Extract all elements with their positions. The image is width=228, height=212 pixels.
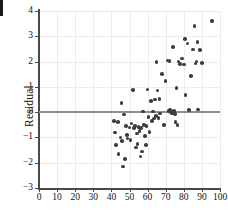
data-point — [145, 124, 149, 128]
data-point — [191, 48, 195, 52]
x-axis-tick-label: 90 — [197, 193, 207, 203]
y-axis-tick-label: 1 — [28, 82, 33, 92]
data-point — [198, 48, 202, 52]
data-point — [116, 120, 120, 124]
x-axis-tick-label: 50 — [125, 193, 135, 203]
y-axis-tick-label: 2 — [28, 57, 33, 67]
data-point — [117, 152, 121, 156]
data-point — [146, 88, 150, 92]
data-point — [196, 108, 200, 112]
data-point — [200, 61, 204, 65]
data-point — [180, 57, 184, 61]
x-axis-tick-label: 30 — [89, 193, 99, 203]
data-point — [156, 89, 160, 93]
data-point — [128, 126, 132, 130]
data-point — [134, 146, 138, 150]
data-point — [113, 131, 117, 135]
data-point — [171, 45, 175, 49]
data-point — [184, 93, 188, 97]
data-point — [144, 143, 148, 147]
data-point — [148, 130, 152, 134]
data-point — [120, 101, 124, 105]
data-point — [131, 88, 135, 92]
data-point — [121, 165, 125, 169]
residual-plot-screenshot: Residual 0102030405060708090100−3−2−1012… — [0, 0, 228, 212]
data-point — [136, 142, 140, 146]
data-point — [158, 112, 162, 116]
y-axis-tick-label: 3 — [28, 32, 33, 42]
data-point — [210, 19, 214, 23]
data-point — [158, 97, 162, 101]
x-axis-tick-label: 40 — [107, 193, 117, 203]
data-point — [187, 108, 191, 112]
y-axis-tick-label: −2 — [23, 158, 33, 168]
x-axis-tick-label: 60 — [143, 193, 153, 203]
x-axis-tick-label: 70 — [161, 193, 171, 203]
data-point — [160, 72, 164, 76]
data-point — [168, 59, 172, 63]
data-point — [157, 116, 161, 120]
data-point — [182, 63, 186, 67]
data-points — [39, 11, 220, 188]
data-point — [164, 79, 168, 83]
data-point — [120, 139, 124, 143]
data-point — [140, 150, 144, 154]
data-point — [162, 123, 166, 127]
data-point — [129, 138, 133, 142]
data-point — [114, 143, 118, 147]
data-point — [151, 110, 155, 114]
x-axis-tick-label: 100 — [213, 193, 227, 203]
data-point — [123, 157, 127, 161]
plot-area: 0102030405060708090100−3−2−101234 — [39, 11, 220, 188]
x-axis-tick-label: 10 — [52, 193, 62, 203]
data-point — [176, 123, 180, 127]
y-axis-tick-label: 4 — [28, 6, 33, 16]
data-point — [139, 155, 143, 159]
data-point — [195, 60, 199, 64]
data-point — [138, 129, 142, 133]
y-axis-tick-label: 0 — [28, 107, 33, 117]
data-point — [175, 86, 179, 90]
data-point — [183, 37, 187, 41]
y-axis-tick-label: −3 — [23, 183, 33, 193]
x-axis-tick-label: 0 — [37, 193, 42, 203]
data-point — [173, 112, 177, 116]
data-point — [196, 40, 200, 44]
data-point — [153, 98, 157, 102]
data-point — [186, 42, 190, 46]
y-axis-tick-label: −1 — [23, 133, 33, 143]
data-point — [155, 60, 159, 64]
gridline-vertical — [220, 11, 221, 188]
x-axis-tick-label: 80 — [179, 193, 189, 203]
data-point — [141, 110, 145, 114]
data-point — [193, 24, 197, 28]
data-point — [122, 113, 126, 117]
data-point — [143, 134, 147, 138]
y-axis-tick — [35, 188, 39, 189]
page-edge-artifact — [0, 0, 3, 16]
data-point — [189, 74, 193, 78]
x-axis-tick-label: 20 — [70, 193, 80, 203]
